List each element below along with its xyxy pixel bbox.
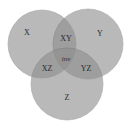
- venn-diagram: X Y Z XY XZ YZ inv: [0, 0, 130, 129]
- label-z: Z: [65, 93, 70, 102]
- venn-svg: X Y Z XY XZ YZ inv: [0, 0, 130, 129]
- label-x: X: [24, 28, 30, 37]
- label-xz: XZ: [42, 64, 53, 73]
- label-yz: YZ: [81, 64, 92, 73]
- label-xy: XY: [60, 34, 72, 43]
- label-y: Y: [97, 29, 103, 38]
- label-xyz: inv: [62, 55, 71, 63]
